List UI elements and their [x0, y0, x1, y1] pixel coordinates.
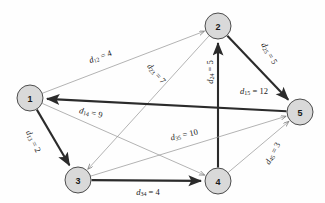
graph-node-2: 2 [205, 13, 231, 39]
edge-label-e23: d23 = 7 [145, 60, 170, 86]
edge-weight-text: d13 = 2 [24, 128, 43, 154]
edge-weight-text: d14 = 9 [78, 105, 103, 120]
edge-layer [37, 31, 289, 181]
graph-edge-e13 [37, 110, 70, 166]
edge-weight-text: d15 = 12 [240, 86, 268, 96]
edge-weight-text: d12 = 4 [87, 47, 113, 65]
graph-node-3: 3 [65, 167, 91, 193]
graph-node-1: 1 [17, 85, 43, 111]
graph-edge-e12 [43, 31, 205, 93]
node-label: 4 [215, 177, 220, 187]
node-label: 1 [27, 94, 32, 104]
graph-canvas: d12 = 4d23 = 7d24 = 5d25 = 5d15 = 12d14 … [0, 0, 325, 203]
edge-label-e25: d25 = 5 [259, 39, 281, 66]
graph-node-5: 5 [287, 99, 313, 125]
graph-edge-e35 [91, 116, 286, 176]
edge-weight-text: d25 = 5 [259, 41, 280, 66]
edge-label-e45: d45 = 3 [261, 139, 283, 166]
edge-weight-text: d35 = 10 [169, 126, 198, 142]
edge-label-e14: d14 = 9 [78, 104, 105, 120]
edge-weight-text: d24 = 5 [205, 60, 215, 84]
edge-weight-text: d34 = 4 [136, 187, 160, 197]
edge-label-e12: d12 = 4 [86, 47, 113, 66]
graph-figure: d12 = 4d23 = 7d24 = 5d25 = 5d15 = 12d14 … [0, 0, 325, 203]
graph-node-4: 4 [205, 168, 231, 194]
graph-edge-e34 [91, 180, 201, 181]
edge-label-e13: d13 = 2 [23, 127, 44, 154]
edge-label-layer: d12 = 4d23 = 7d24 = 5d25 = 5d15 = 12d14 … [23, 39, 282, 196]
edge-weight-text: d45 = 3 [262, 140, 282, 166]
node-label: 2 [215, 22, 220, 32]
edge-label-e15: d15 = 12 [239, 85, 268, 96]
edge-label-e24: d24 = 5 [204, 60, 215, 85]
edge-label-e34: d34 = 4 [136, 186, 161, 197]
node-label: 3 [75, 176, 80, 186]
node-label: 5 [297, 108, 302, 118]
edge-label-e35: d35 = 10 [169, 125, 200, 142]
